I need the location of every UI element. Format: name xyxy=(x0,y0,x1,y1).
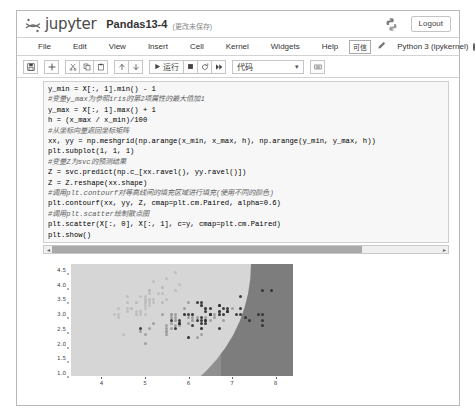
play-icon xyxy=(154,63,161,70)
toolbar-group-file xyxy=(23,60,37,74)
scatter-point xyxy=(148,304,151,307)
scroll-right-arrow-icon[interactable]: ▸ xyxy=(440,246,448,253)
insert-cell-below-button[interactable] xyxy=(44,60,59,74)
keyboard-icon xyxy=(314,63,322,71)
command-palette-button[interactable] xyxy=(310,60,325,74)
scatter-point xyxy=(170,319,173,322)
y-tick-label: 2.0 xyxy=(57,341,66,347)
fast-forward-icon xyxy=(215,63,223,71)
clipboard-paste-icon xyxy=(97,63,105,71)
restart-circle-icon xyxy=(201,63,209,71)
scatter-point xyxy=(187,316,190,319)
code-line: #变量Z为svc的预测结果 xyxy=(48,157,444,167)
stop-square-icon xyxy=(187,63,194,70)
scatter-point xyxy=(209,307,212,310)
scatter-point xyxy=(170,322,173,325)
save-button[interactable] xyxy=(23,60,38,74)
scatter-point xyxy=(144,313,147,316)
x-tick-label: 4 xyxy=(100,380,104,386)
code-line: h = (x_max / x_min)/100 xyxy=(48,115,444,125)
scatter-point xyxy=(200,304,203,307)
code-cell-horizontal-scrollbar[interactable]: ◂ ▸ xyxy=(43,245,449,254)
cut-cell-button[interactable] xyxy=(65,60,80,74)
scatter-point xyxy=(222,319,225,322)
menu-item-kernel[interactable]: Kernel xyxy=(215,42,260,51)
run-cell-button[interactable]: 运行 xyxy=(149,60,184,74)
scatter-point xyxy=(200,322,203,325)
code-line: y_min = X[:, 1].min() - 1 xyxy=(48,84,444,94)
code-cell[interactable]: y_min = X[:, 1].min() - 1 #变量y_max为参照iri… xyxy=(17,78,459,243)
scatter-point xyxy=(213,313,216,316)
code-line: Z = Z.reshape(xx.shape) xyxy=(48,178,444,188)
menu-item-widgets[interactable]: Widgets xyxy=(260,42,311,51)
scatter-point xyxy=(231,307,234,310)
scatter-point xyxy=(257,313,260,316)
code-line: plt.subplot(1, 1, 1) xyxy=(48,146,444,156)
menu-item-view[interactable]: View xyxy=(98,42,137,51)
scatter-point xyxy=(148,292,151,295)
y-tick-label: 3.5 xyxy=(57,296,66,302)
y-tick-label: 1.5 xyxy=(57,355,66,361)
jupyter-logo-icon[interactable] xyxy=(25,18,41,33)
scissors-icon xyxy=(69,63,77,71)
scatter-point xyxy=(148,301,151,304)
scatter-point xyxy=(239,313,242,316)
y-tick-label: 3.0 xyxy=(57,311,66,317)
restart-and-run-all-button[interactable] xyxy=(211,60,226,74)
scatter-point xyxy=(200,301,203,304)
menu-item-insert[interactable]: Insert xyxy=(137,42,179,51)
y-tick-mark xyxy=(67,347,69,348)
scatter-point xyxy=(113,313,116,316)
scatter-point xyxy=(218,313,221,316)
scatter-point xyxy=(218,304,221,307)
menu-item-cell[interactable]: Cell xyxy=(179,42,215,51)
code-line: plt.show() xyxy=(48,230,444,240)
restart-kernel-button[interactable] xyxy=(197,60,212,74)
menu-item-help[interactable]: Help xyxy=(311,42,349,51)
move-cell-up-button[interactable] xyxy=(114,60,129,74)
matplotlib-figure: 1.01.52.02.53.03.54.04.5 45678 xyxy=(43,260,303,400)
pencil-icon[interactable] xyxy=(377,41,386,52)
menu-item-file[interactable]: File xyxy=(27,42,62,51)
cell-output-area: 1.01.52.02.53.03.54.04.5 45678 xyxy=(17,254,459,400)
notebook-name[interactable]: Pandas13-4 xyxy=(106,18,167,30)
scatter-point xyxy=(126,301,129,304)
plot-axes xyxy=(71,264,293,376)
scatter-point xyxy=(187,322,190,325)
code-line: #调用plt.scatter绘制散点图 xyxy=(48,209,444,219)
menu-item-edit[interactable]: Edit xyxy=(62,42,98,51)
paste-cell-button[interactable] xyxy=(93,60,108,74)
scatter-point xyxy=(135,313,138,316)
save-status-label: (更改未保存) xyxy=(172,21,212,31)
scatter-point xyxy=(139,310,142,313)
interrupt-kernel-button[interactable] xyxy=(183,60,198,74)
y-tick-mark xyxy=(67,273,69,274)
x-tick-mark xyxy=(276,377,277,379)
scatter-point xyxy=(144,307,147,310)
cell-type-select[interactable]: 代码 ▾ xyxy=(232,60,304,74)
y-tick-mark xyxy=(67,362,69,363)
scatter-point xyxy=(196,301,199,304)
scrollbar-thumb[interactable] xyxy=(52,246,362,253)
arrow-down-icon xyxy=(132,63,140,71)
notebook-body[interactable]: y_min = X[:, 1].min() - 1 #变量y_max为参照iri… xyxy=(17,78,459,405)
x-axis-ticks: 45678 xyxy=(71,377,293,389)
x-tick-mark xyxy=(189,377,190,379)
scatter-point xyxy=(157,292,160,295)
x-tick-label: 5 xyxy=(143,380,147,386)
copy-cell-button[interactable] xyxy=(79,60,94,74)
toolbar-group-insert xyxy=(44,60,58,74)
scrollbar-track[interactable] xyxy=(52,246,440,253)
trusted-badge[interactable]: 可信 xyxy=(349,40,371,54)
scatter-point xyxy=(152,322,155,325)
move-cell-down-button[interactable] xyxy=(128,60,143,74)
toolbar-group-run: 运行 xyxy=(149,60,225,74)
python-logo-icon xyxy=(384,17,399,32)
code-editor[interactable]: y_min = X[:, 1].min() - 1 #变量y_max为参照iri… xyxy=(43,81,449,243)
cell-type-value: 代码 xyxy=(237,61,253,72)
jupyter-notebook-window: jupyter Pandas13-4 (更改未保存) Logout File E… xyxy=(16,10,460,406)
scatter-point xyxy=(261,319,264,322)
logout-button[interactable]: Logout xyxy=(411,16,451,32)
scroll-left-arrow-icon[interactable]: ◂ xyxy=(44,246,52,253)
code-line: Z = svc.predict(np.c_[xx.ravel(), yy.rav… xyxy=(48,167,444,177)
